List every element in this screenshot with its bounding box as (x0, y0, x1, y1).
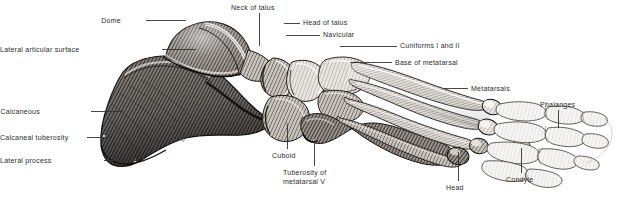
label-line: Phalanges (540, 101, 575, 110)
label-calcaneous: Calcaneous (0, 108, 40, 117)
label-line: Tuberosity of (283, 169, 326, 178)
label-metatarsals: Metatarsals (471, 85, 510, 94)
label-lateral-process: Lateral process (0, 157, 40, 166)
label-cuniforms-i-and-ii: Cuniforms I and II (400, 42, 460, 51)
foot-skeleton-figure: DomeLateral articular surfaceNeck of tal… (0, 0, 620, 200)
label-line: Calcaneous (0, 108, 40, 117)
label-tuberosity-of-metatarsal-v: Tuberosity ofmetatarsal V (283, 169, 326, 186)
label-line: Cuniforms I and II (400, 42, 460, 51)
label-lateral-articular-surface: Lateral articular surface (0, 46, 51, 55)
label-line: Base of metatarsal (395, 59, 458, 68)
label-head-of-talus: Head of talus (303, 19, 348, 28)
label-line: Cuboid (272, 152, 296, 161)
label-line: Dome (0, 17, 121, 26)
label-head: Head (446, 184, 464, 193)
label-neck-of-talus: Neck of talus (231, 4, 275, 13)
label-condyle: Condyle (506, 176, 533, 185)
label-base-of-metatarsal: Base of metatarsal (395, 59, 458, 68)
label-dome: Dome (0, 17, 121, 26)
label-line: Neck of talus (231, 4, 275, 13)
label-line: metatarsal V (283, 178, 326, 187)
label-calcaneal-tuberosity: Calcaneal tuberosity (0, 134, 10, 143)
label-cuboid: Cuboid (272, 152, 296, 161)
label-line: Calcaneal tuberosity (0, 134, 10, 143)
label-phalanges: Phalanges (540, 101, 575, 110)
label-line: Lateral process (0, 157, 40, 166)
label-line: Metatarsals (471, 85, 510, 94)
label-navicular: Navicular (323, 31, 354, 40)
label-line: Condyle (506, 176, 533, 185)
label-line: Head (446, 184, 464, 193)
label-line: Head of talus (303, 19, 348, 28)
label-line: Navicular (323, 31, 354, 40)
label-line: Lateral articular surface (0, 46, 51, 55)
